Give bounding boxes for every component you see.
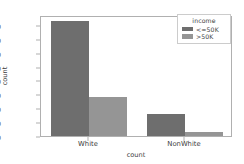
x-tick-mark — [184, 137, 185, 141]
legend-entry: <=50K — [182, 26, 226, 33]
bar — [185, 132, 223, 136]
legend-label: <=50K — [196, 26, 219, 33]
x-tick-mark — [88, 137, 89, 141]
x-tick-label: NonWhite — [167, 140, 200, 148]
legend-title: income — [182, 17, 226, 24]
y-tick-label: 7500 — [0, 92, 1, 99]
y-tick-label: 12500 — [0, 64, 1, 71]
bar — [51, 21, 89, 136]
y-tick-label: 10000 — [0, 78, 1, 85]
legend: income <=50K>50K — [177, 14, 231, 44]
legend-label: >50K — [196, 33, 214, 40]
legend-swatch-icon — [182, 34, 193, 39]
legend-entries: <=50K>50K — [182, 26, 226, 41]
bar — [89, 97, 127, 136]
y-tick-label: 15000 — [0, 50, 1, 57]
y-tick-label: 5000 — [0, 106, 1, 113]
legend-swatch-icon — [182, 27, 193, 32]
legend-entry: >50K — [182, 33, 226, 40]
x-axis-label: count — [127, 151, 146, 159]
chart-figure: count 0250050007500100001250015000175002… — [0, 0, 244, 164]
bar — [147, 114, 185, 136]
y-axis-label: count — [1, 67, 9, 86]
y-tick-label: 0 — [0, 134, 1, 141]
y-tick-label: 2500 — [0, 120, 1, 127]
x-tick-label: White — [78, 140, 98, 148]
y-tick-label: 20000 — [0, 22, 1, 29]
y-tick-label: 17500 — [0, 36, 1, 43]
